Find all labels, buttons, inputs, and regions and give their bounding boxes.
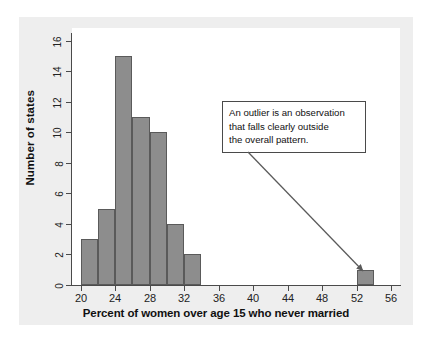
x-tick bbox=[391, 286, 392, 291]
y-tick: 6 bbox=[66, 193, 71, 194]
x-tick-label: 32 bbox=[178, 293, 190, 304]
y-tick-label: 4 bbox=[55, 222, 65, 228]
y-tick: 12 bbox=[66, 102, 71, 103]
y-axis-line bbox=[71, 33, 72, 286]
y-tick: 16 bbox=[66, 41, 71, 42]
x-tick bbox=[184, 286, 185, 291]
x-tick-label: 20 bbox=[75, 293, 87, 304]
annotation-callout: An outlier is an observation that falls … bbox=[222, 101, 366, 153]
x-tick bbox=[288, 286, 289, 291]
y-tick-label: 8 bbox=[55, 161, 65, 167]
annotation-text: An outlier is an observation that falls … bbox=[229, 106, 359, 147]
y-tick: 10 bbox=[66, 132, 71, 133]
x-axis-title: Percent of women over age 15 who never m… bbox=[0, 307, 432, 319]
x-tick bbox=[253, 286, 254, 291]
x-axis-line bbox=[71, 285, 401, 286]
x-tick-label: 52 bbox=[351, 293, 363, 304]
y-tick-label: 0 bbox=[55, 283, 65, 289]
x-tick bbox=[357, 286, 358, 291]
x-tick bbox=[150, 286, 151, 291]
x-tick bbox=[219, 286, 220, 291]
histogram-bar bbox=[167, 224, 184, 285]
x-tick-label: 44 bbox=[282, 293, 294, 304]
histogram-bar bbox=[184, 254, 201, 285]
y-tick-label: 16 bbox=[52, 36, 62, 47]
x-tick-label: 48 bbox=[316, 293, 328, 304]
y-tick: 4 bbox=[66, 224, 71, 225]
histogram-bar bbox=[98, 209, 115, 285]
y-tick-label: 14 bbox=[52, 66, 62, 77]
x-tick bbox=[322, 286, 323, 291]
outlier-bar bbox=[357, 270, 374, 285]
y-tick: 2 bbox=[66, 254, 71, 255]
y-tick-label: 6 bbox=[55, 191, 65, 197]
x-tick-label: 36 bbox=[213, 293, 225, 304]
histogram-bar bbox=[81, 239, 98, 285]
y-tick-label: 10 bbox=[52, 127, 62, 138]
x-tick-label: 28 bbox=[144, 293, 156, 304]
y-tick-label: 12 bbox=[52, 97, 62, 108]
histogram-figure: 0246810121416 20242832364044485256 Numbe… bbox=[0, 0, 432, 349]
x-tick-label: 56 bbox=[385, 293, 397, 304]
x-tick-label: 40 bbox=[247, 293, 259, 304]
x-tick bbox=[81, 286, 82, 291]
histogram-bar bbox=[115, 56, 132, 285]
x-tick bbox=[115, 286, 116, 291]
y-tick: 0 bbox=[66, 285, 71, 286]
x-tick-label: 24 bbox=[109, 293, 121, 304]
histogram-bar bbox=[132, 117, 149, 285]
y-tick: 8 bbox=[66, 163, 71, 164]
y-tick-label: 2 bbox=[55, 252, 65, 258]
y-axis-title: Number of states bbox=[24, 90, 40, 186]
histogram-bar bbox=[150, 132, 167, 285]
y-tick: 14 bbox=[66, 71, 71, 72]
